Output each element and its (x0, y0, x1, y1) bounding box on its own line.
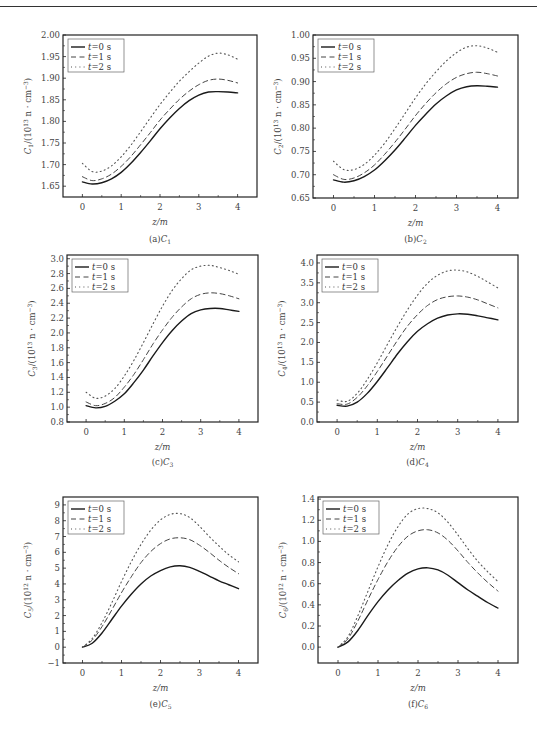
y-tick-label: 0.90 (291, 77, 310, 87)
y-tick-label: 0.5 (300, 397, 314, 407)
legend-label: t=1 s (343, 514, 366, 524)
y-tick-label: 0.6 (301, 579, 315, 589)
y-tick-label: 2.00 (41, 30, 60, 40)
y-tick-label: 1.80 (41, 116, 60, 126)
y-tick-label: 0.0 (301, 642, 315, 652)
y-tick-label: 1.2 (50, 387, 64, 397)
y-tick-label: 2.2 (50, 313, 64, 323)
x-tick-label: 4 (236, 427, 241, 437)
x-tick-label: 4 (495, 203, 500, 213)
y-tick-label: 0.4 (301, 600, 315, 610)
y-tick-label: 8 (55, 516, 60, 526)
chart-panel-d: 0.00.51.01.52.02.53.03.54.001234z/mC4/(1… (276, 255, 518, 468)
y-tick-label: 0.2 (301, 621, 315, 631)
x-tick-label: 2 (413, 203, 418, 213)
y-axis-label: C2/(1013 n · cm−3) (272, 78, 284, 154)
y-tick-label: 2.4 (50, 298, 64, 308)
x-axis-label: z/m (409, 442, 425, 452)
panel-a-chart: 1.651.701.751.801.851.901.952.0001234z/m… (0, 0, 537, 729)
series-line-t0s (338, 568, 498, 647)
legend: t=0 st=1 st=2 s (323, 501, 379, 534)
y-tick-label: 1.0 (50, 402, 64, 412)
y-tick-label: 5 (55, 563, 60, 573)
series-line-t0s (82, 92, 237, 184)
x-tick-label: 1 (375, 427, 380, 437)
y-tick-label: 1.0 (300, 377, 314, 387)
legend-label: t=0 s (343, 504, 366, 514)
y-tick-label: 2.8 (50, 269, 64, 279)
y-tick-label: 0.70 (291, 170, 310, 180)
x-axis-label: z/m (409, 683, 425, 693)
y-tick-label: 7 (55, 532, 60, 542)
x-tick-label: 4 (495, 668, 500, 678)
x-tick-label: 4 (235, 202, 240, 212)
x-tick-label: 3 (454, 203, 459, 213)
legend-label: t=1 s (88, 52, 111, 62)
y-tick-label: 0.75 (291, 146, 310, 156)
x-tick-label: 0 (334, 427, 339, 437)
subfigure-caption: (a)C1 (149, 234, 171, 245)
y-tick-label: 1.95 (41, 52, 60, 62)
y-tick-label: 4.0 (300, 258, 314, 268)
y-tick-label: 0.65 (291, 193, 310, 203)
y-axis-label: C6/(1012 n · cm−3) (277, 542, 289, 618)
x-tick-label: 3 (196, 202, 201, 212)
y-tick-label: 9 (55, 500, 60, 510)
x-tick-label: 2 (158, 668, 163, 678)
x-tick-label: 3 (198, 427, 203, 437)
y-tick-label: 1.8 (50, 343, 64, 353)
x-tick-label: 1 (118, 202, 123, 212)
legend-label: t=0 s (88, 504, 111, 514)
y-tick-label: 1.0 (301, 536, 315, 546)
legend-label: t=2 s (343, 524, 366, 534)
legend-label: t=2 s (88, 524, 111, 534)
legend-label: t=2 s (338, 62, 361, 72)
x-axis-label: z/m (407, 218, 423, 228)
chart-panel-f: 0.00.20.40.60.81.01.21.401234z/mC6/(1012… (277, 494, 518, 710)
x-tick-label: 0 (83, 427, 88, 437)
y-tick-label: 3.5 (300, 278, 314, 288)
subfigure-caption: (c)C3 (152, 457, 174, 468)
y-tick-label: 6 (55, 547, 60, 557)
y-tick-label: 2.0 (300, 337, 314, 347)
x-tick-label: 4 (495, 427, 500, 437)
y-tick-label: 1 (55, 626, 60, 636)
y-tick-label: 0.0 (300, 417, 314, 427)
y-tick-label: 0.80 (291, 123, 310, 133)
series-line-t1s (338, 530, 498, 647)
series-line-t0s (83, 566, 239, 647)
y-tick-label: 3 (55, 595, 60, 605)
y-tick-label: 0.8 (50, 417, 64, 427)
y-tick-label: 1.65 (41, 181, 60, 191)
y-axis-label: C4/(1013 n · cm−3) (276, 300, 288, 376)
y-tick-label: 1.5 (300, 357, 314, 367)
x-tick-label: 3 (197, 668, 202, 678)
x-tick-label: 2 (415, 668, 420, 678)
y-tick-label: 3.0 (50, 254, 64, 264)
series-line-t1s (82, 79, 237, 181)
chart-panel-b: 0.650.700.750.800.850.900.951.0001234z/m… (272, 30, 518, 245)
series-line-t0s (86, 308, 239, 408)
y-tick-label: 1.2 (301, 515, 315, 525)
series-line-t0s (334, 86, 498, 182)
y-tick-label: 4 (55, 579, 60, 589)
legend-label: t=1 s (342, 272, 365, 282)
x-axis-label: z/m (152, 683, 168, 693)
subfigure-caption: (f)C6 (408, 699, 428, 710)
y-tick-label: 1.00 (291, 30, 310, 40)
subfigure-caption: (e)C5 (149, 699, 171, 710)
x-tick-label: 0 (80, 202, 85, 212)
series-line-t0s (337, 314, 498, 406)
x-tick-label: 3 (455, 427, 460, 437)
subfigure-caption: (d)C4 (406, 457, 429, 468)
x-tick-label: 1 (119, 668, 124, 678)
x-tick-label: 2 (157, 202, 162, 212)
chart-panel-e: −1012345678901234z/mC5/(1012 n · cm−3)t=… (22, 497, 258, 710)
y-axis-label: C5/(1012 n · cm−3) (22, 542, 34, 618)
legend: t=0 st=1 st=2 s (322, 259, 378, 292)
legend: t=0 st=1 st=2 s (72, 259, 128, 292)
x-tick-label: 0 (80, 668, 85, 678)
legend-label: t=1 s (88, 514, 111, 524)
x-tick-label: 1 (372, 203, 377, 213)
y-tick-label: 1.4 (50, 372, 64, 382)
